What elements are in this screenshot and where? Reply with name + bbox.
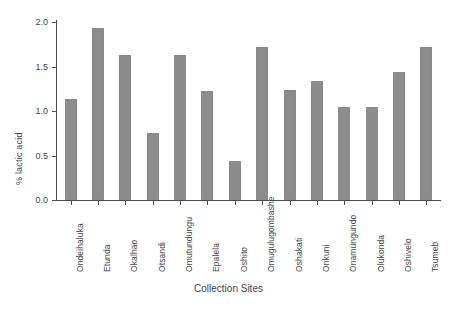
x-tick-mark <box>153 201 154 205</box>
x-tick-mark <box>180 201 181 205</box>
bar <box>311 81 323 200</box>
x-tick-mark <box>290 201 291 205</box>
bar <box>420 47 432 200</box>
x-tick-mark <box>235 201 236 205</box>
x-tick-label: Omugulugombashe <box>266 196 276 272</box>
x-tick-mark <box>71 201 72 205</box>
bar <box>366 107 378 200</box>
x-tick-label: Omutundungu <box>184 217 194 272</box>
x-tick-label: Oshito <box>239 247 249 272</box>
y-axis-ticks: 0.00.51.01.52.0 <box>0 0 57 311</box>
x-tick-mark <box>317 201 318 205</box>
x-tick-label: Onamungundo <box>348 215 358 272</box>
y-tick-label: 0.5 <box>8 151 48 161</box>
bar <box>119 55 131 200</box>
bar <box>65 99 77 200</box>
x-tick-label: Olukonda <box>376 235 386 272</box>
x-tick-label: Onkuni <box>321 244 331 272</box>
x-tick-mark <box>98 201 99 205</box>
y-tick-label: 1.0 <box>8 106 48 116</box>
x-tick-label: Ondeihaluka <box>75 223 85 272</box>
x-axis-title: Collection Sites <box>0 283 457 294</box>
bar <box>338 107 350 200</box>
x-tick-mark <box>262 201 263 205</box>
bar <box>256 47 268 200</box>
x-tick-label: Okalhao <box>129 240 139 272</box>
plot-area <box>57 22 440 200</box>
x-tick-label: Tsumeb <box>430 242 440 272</box>
bar <box>174 55 186 200</box>
x-tick-label: Oshakati <box>294 238 304 272</box>
x-tick-mark <box>426 201 427 205</box>
x-tick-label: Epalela <box>211 243 221 272</box>
bar-chart-figure: % lactic acid 0.00.51.01.52.0 Collection… <box>0 0 457 311</box>
x-tick-mark <box>207 201 208 205</box>
x-tick-mark <box>399 201 400 205</box>
bar <box>284 90 296 200</box>
y-tick-label: 0.0 <box>8 195 48 205</box>
x-axis-line <box>57 200 441 201</box>
x-tick-label: Oshivelo <box>403 238 413 272</box>
bar <box>147 133 159 200</box>
x-tick-mark <box>125 201 126 205</box>
bar <box>229 161 241 200</box>
y-tick-label: 2.0 <box>8 17 48 27</box>
bar <box>201 91 213 200</box>
x-tick-mark <box>372 201 373 205</box>
x-tick-mark <box>344 201 345 205</box>
y-tick-label: 1.5 <box>8 62 48 72</box>
x-tick-label: Etunda <box>102 244 112 272</box>
x-tick-label: Otsandi <box>157 242 167 272</box>
bar <box>92 28 104 200</box>
bar <box>393 72 405 200</box>
